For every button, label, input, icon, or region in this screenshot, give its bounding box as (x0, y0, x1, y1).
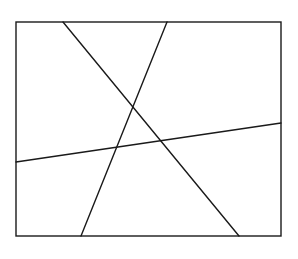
line-a (63, 22, 239, 236)
line-b (81, 22, 167, 236)
diagram-canvas (0, 0, 298, 259)
line-c (16, 123, 281, 162)
